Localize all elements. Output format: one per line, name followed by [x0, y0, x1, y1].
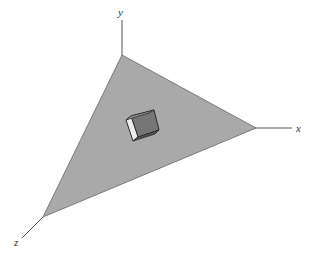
y-axis-label: y — [117, 6, 123, 18]
x-axis-label: x — [295, 122, 301, 134]
diagram-canvas: y x z — [0, 0, 315, 254]
z-axis-line — [22, 216, 44, 238]
diagram-svg: y x z — [0, 0, 315, 254]
z-axis-label: z — [13, 236, 19, 248]
